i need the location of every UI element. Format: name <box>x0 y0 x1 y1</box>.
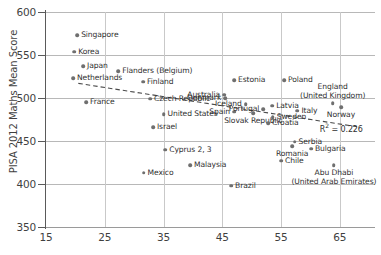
data-point-united-states[interactable] <box>162 113 166 117</box>
y-tick-350 <box>38 227 46 228</box>
point-label-finland: Finland <box>147 77 173 86</box>
data-point-abu-dhabi-united-arab-emirates[interactable] <box>332 163 336 167</box>
point-label-israel: Israel <box>157 123 177 132</box>
point-label-united-states: United States <box>168 110 218 119</box>
data-point-netherlands[interactable] <box>71 76 75 80</box>
x-tick-label-25: 25 <box>90 231 120 243</box>
data-point-czech-republic[interactable] <box>148 97 152 101</box>
point-label-bulgaria: Bulgaria <box>315 144 346 153</box>
data-point-latvia[interactable] <box>270 104 274 108</box>
point-label-croatia: Croatia <box>272 119 299 128</box>
gridline-y-600 <box>46 12 375 13</box>
gridline-x-25 <box>105 12 106 227</box>
x-tick-label-15: 15 <box>31 231 61 243</box>
data-point-bulgaria[interactable] <box>309 147 313 151</box>
gridline-y-450 <box>46 141 375 142</box>
point-label-cyprus-2-3: Cyprus 2, 3 <box>169 145 211 154</box>
data-point-slovak-republic[interactable] <box>252 112 256 116</box>
data-point-korea[interactable] <box>72 50 76 54</box>
x-axis-line <box>45 227 375 228</box>
data-point-norway[interactable] <box>339 106 343 110</box>
y-tick-600 <box>38 12 46 13</box>
y-tick-label-550: 550 <box>0 49 36 61</box>
data-point-england-united-kingdom[interactable] <box>331 101 335 105</box>
data-point-croatia[interactable] <box>266 121 270 125</box>
data-point-estonia[interactable] <box>232 78 236 82</box>
y-tick-label-500: 500 <box>0 92 36 104</box>
point-label-mexico: Mexico <box>148 169 174 178</box>
x-tick-label-35: 35 <box>149 231 179 243</box>
point-label-malaysia: Malaysia <box>194 161 226 170</box>
y-tick-label-450: 450 <box>0 135 36 147</box>
point-label-japan: Japan <box>87 62 108 71</box>
point-label-flanders-belgium: Flanders (Belgium) <box>122 67 192 76</box>
data-point-mexico[interactable] <box>142 171 146 175</box>
point-label-norway: Norway <box>295 111 381 120</box>
data-point-portugal[interactable] <box>262 107 266 111</box>
y-tick-450 <box>38 141 46 142</box>
y-tick-400 <box>38 184 46 185</box>
y-tick-label-400: 400 <box>0 178 36 190</box>
data-point-brazil[interactable] <box>229 184 233 188</box>
plot-area: SingaporeKoreaJapanNetherlandsFlanders (… <box>46 12 375 227</box>
data-point-poland[interactable] <box>282 78 286 82</box>
r-squared-annotation: R2 = 0.226 <box>320 122 363 134</box>
y-tick-500 <box>38 98 46 99</box>
data-point-chile[interactable] <box>279 159 283 163</box>
point-label-estonia: Estonia <box>238 76 265 85</box>
data-point-cyprus-2-3[interactable] <box>163 148 167 152</box>
y-tick-label-600: 600 <box>0 6 36 18</box>
point-label-korea: Korea <box>78 47 99 56</box>
point-label-chile: Chile <box>285 156 304 165</box>
data-point-israel[interactable] <box>151 125 155 129</box>
point-label-netherlands: Netherlands <box>77 74 122 83</box>
scatter-chart: PISA 2012 Maths Mean Score 3504004505005… <box>0 0 381 255</box>
data-point-finland[interactable] <box>141 80 145 84</box>
data-point-japan[interactable] <box>81 64 85 68</box>
x-tick-label-65: 65 <box>325 231 355 243</box>
data-point-serbia[interactable] <box>293 140 297 144</box>
data-point-singapore[interactable] <box>75 33 79 37</box>
point-label-singapore: Singapore <box>81 31 118 40</box>
data-point-romania[interactable] <box>290 144 294 148</box>
x-tick-label-45: 45 <box>207 231 237 243</box>
gridline-x-35 <box>164 12 165 227</box>
data-point-france[interactable] <box>84 101 88 105</box>
data-point-flanders-belgium[interactable] <box>116 70 120 74</box>
point-label-england-united-kingdom: England(United Kingdom) <box>291 83 375 100</box>
point-label-abu-dhabi-united-arab-emirates: Abu Dhabi(United Arab Emirates) <box>288 169 380 186</box>
point-label-france: France <box>90 98 115 107</box>
point-label-brazil: Brazil <box>235 181 256 190</box>
data-point-malaysia[interactable] <box>188 163 192 167</box>
x-tick-label-55: 55 <box>266 231 296 243</box>
y-tick-550 <box>38 55 46 56</box>
